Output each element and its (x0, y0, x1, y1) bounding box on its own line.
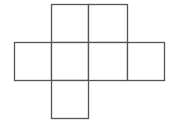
net-square-mid-2 (52, 43, 89, 81)
cube-net-diagram (0, 0, 174, 123)
net-square-top-right (89, 5, 128, 43)
net-square-mid-4 (128, 43, 165, 81)
net-square-mid-3 (89, 43, 128, 81)
net-square-top-left (52, 5, 89, 43)
net-square-bottom (52, 81, 89, 119)
net-square-mid-1 (15, 43, 52, 81)
